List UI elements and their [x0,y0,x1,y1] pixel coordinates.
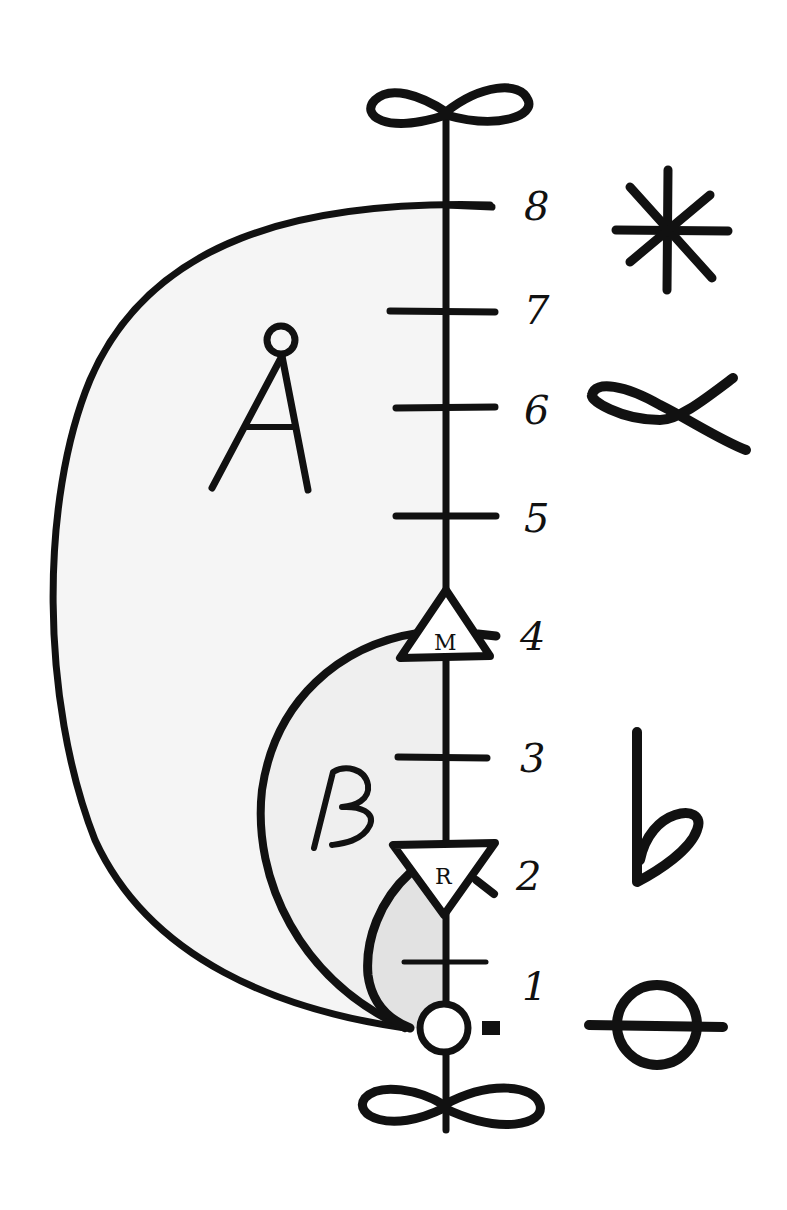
tick-0 [482,1021,500,1035]
tick-7 [390,311,495,312]
tick-3 [398,757,487,758]
tick-label-6: 6 [524,387,549,433]
svg-text:M: M [434,630,457,655]
tick-2 [476,880,494,894]
svg-text:R: R [435,864,453,889]
tick-label-8: 8 [524,183,549,229]
diagram-canvas: 8 7 6 5 4 3 2 1 M R [0,0,787,1210]
tick-6 [396,407,495,408]
tick-label-4: 4 [519,613,545,659]
tick-label-2: 2 [515,853,541,899]
diagram-svg: 8 7 6 5 4 3 2 1 M R [0,0,787,1210]
flat-icon [637,732,698,882]
bottom-infinity-loop-icon [362,1088,540,1124]
tick-labels: 8 7 6 5 4 3 2 1 [515,183,550,1009]
tick-label-7: 7 [524,287,550,333]
tick-label-3: 3 [520,735,545,781]
top-infinity-loop-icon [371,88,529,124]
alpha-icon [592,378,746,450]
tick-label-1: 1 [522,963,547,1009]
asterisk-icon [616,170,728,290]
origin-circle-marker [420,1004,468,1052]
tick-label-5: 5 [524,495,549,541]
theta-icon [589,985,723,1065]
tick-8 [446,205,492,207]
